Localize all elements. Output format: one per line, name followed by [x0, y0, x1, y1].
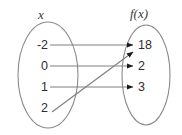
domain-value-1: -2 [26, 38, 48, 52]
domain-value-2: 0 [26, 59, 48, 73]
mapping-diagram: x f(x) -2 0 1 2 18 2 3 [0, 0, 182, 135]
range-value-3: 3 [138, 80, 160, 94]
mapping-arrow-2-to-18 [52, 52, 133, 112]
domain-value-3: 1 [26, 80, 48, 94]
range-value-1: 18 [138, 38, 160, 52]
domain-set-label: x [38, 7, 44, 23]
range-value-2: 2 [138, 59, 160, 73]
range-set-label: f(x) [130, 6, 148, 22]
domain-value-4: 2 [26, 101, 48, 115]
